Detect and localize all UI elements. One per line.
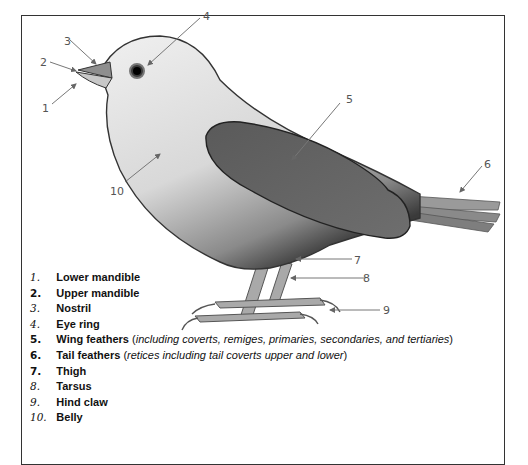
legend-detail: including coverts, remiges, primaries, s…	[136, 333, 450, 345]
legend-label: Eye ring	[56, 318, 99, 330]
callout-line-3	[70, 40, 96, 64]
callout-3: 3	[64, 35, 71, 48]
legend-item: 7. Thigh	[30, 364, 453, 380]
callout-line-2	[50, 62, 76, 71]
legend-label: Wing feathers	[56, 333, 129, 345]
legend-label: Nostril	[56, 302, 91, 314]
legend-item: 6. Tail feathers (retices including tail…	[30, 348, 453, 364]
legend-number: 6.	[30, 348, 53, 364]
legend-label: Hind claw	[56, 396, 107, 408]
legend-paren-open: (	[129, 333, 136, 345]
callout-7: 7	[354, 254, 361, 267]
legend-paren-close: )	[344, 349, 348, 361]
callout-line-1	[52, 84, 76, 104]
legend-detail: retices including tail coverts upper and…	[127, 349, 343, 361]
legend-item: 8. Tarsus	[30, 379, 453, 395]
legend-number: 10.	[30, 410, 53, 426]
tail-feathers	[410, 196, 500, 232]
legend-label: Thigh	[56, 365, 86, 377]
eye	[133, 67, 141, 75]
legend-number: 1.	[30, 270, 53, 286]
legend-item: 4. Eye ring	[30, 317, 453, 333]
callout-4: 4	[203, 10, 210, 23]
bird-beak	[76, 62, 112, 88]
parts-legend: 1. Lower mandible 2. Upper mandible 3. N…	[30, 270, 453, 426]
legend-label: Tail feathers	[56, 349, 120, 361]
legend-paren-close: )	[449, 333, 453, 345]
legend-label: Upper mandible	[56, 287, 139, 299]
legend-item: 9. Hind claw	[30, 395, 453, 411]
legend-number: 9.	[30, 395, 53, 411]
callout-line-6	[460, 166, 482, 192]
legend-item: 5. Wing feathers (including coverts, rem…	[30, 332, 453, 348]
callout-6: 6	[484, 158, 491, 171]
legend-item: 3. Nostril	[30, 301, 453, 317]
legend-number: 2.	[30, 286, 53, 302]
callout-10: 10	[110, 185, 124, 198]
legend-number: 4.	[30, 317, 53, 333]
legend-number: 5.	[30, 332, 53, 348]
legend-label: Lower mandible	[56, 271, 140, 283]
callout-5: 5	[346, 93, 353, 106]
legend-label: Tarsus	[56, 380, 91, 392]
callout-1: 1	[42, 102, 49, 115]
legend-item: 1. Lower mandible	[30, 270, 453, 286]
legend-number: 7.	[30, 364, 53, 380]
legend-item: 2. Upper mandible	[30, 286, 453, 302]
legend-item: 10. Belly	[30, 410, 453, 426]
legend-label: Belly	[56, 411, 82, 423]
legend-number: 8.	[30, 379, 53, 395]
legend-number: 3.	[30, 301, 53, 317]
callout-2: 2	[40, 56, 47, 69]
